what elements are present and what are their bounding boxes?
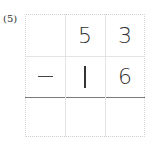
cell-r1-c1: [25, 15, 65, 56]
minus-sign: [38, 76, 53, 77]
minuend-tens: 5: [65, 15, 105, 56]
answer-tens[interactable]: [65, 97, 105, 138]
problem-number: (5): [3, 13, 17, 24]
subtrahend-tens: [65, 56, 105, 97]
subtrahend-ones: 6: [105, 56, 145, 97]
subtraction-grid: 5 3 6: [25, 14, 145, 137]
answer-cell-1[interactable]: [25, 97, 65, 138]
minuend-ones: 3: [105, 15, 145, 56]
answer-ones[interactable]: [105, 97, 145, 138]
digit-one: [84, 66, 86, 88]
minus-sign-cell: [25, 56, 65, 97]
